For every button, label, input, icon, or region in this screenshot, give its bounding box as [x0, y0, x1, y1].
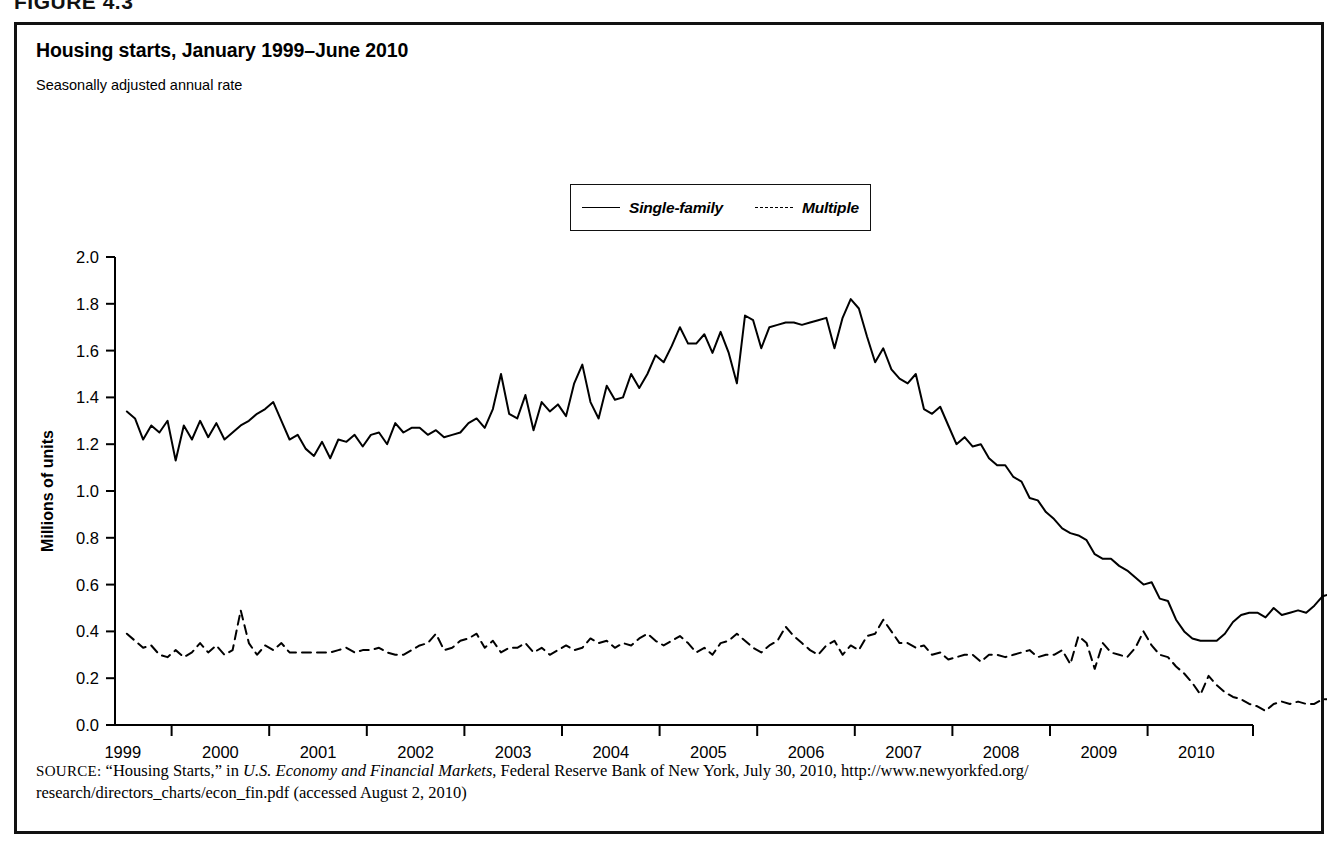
- y-axis-tick-label: 0.0: [76, 716, 99, 734]
- legend-label-multiple: Multiple: [802, 199, 859, 217]
- chart-legend: Single-family Multiple: [570, 184, 871, 231]
- y-axis-tick-label: 1.4: [76, 388, 99, 406]
- plot-area: 0.00.20.40.60.81.01.21.41.61.82.01999200…: [17, 25, 1327, 837]
- x-axis-tick-label: 2005: [690, 743, 727, 761]
- source-prefix: SOURCE:: [36, 763, 101, 779]
- source-publication-title: U.S. Economy and Financial Markets: [243, 761, 492, 780]
- x-axis-tick-label: 2003: [495, 743, 532, 761]
- legend-entry-multiple: Multiple: [755, 199, 859, 217]
- legend-label-single-family: Single-family: [629, 199, 723, 217]
- y-axis-tick-label: 1.6: [76, 342, 99, 360]
- y-axis-tick-label: 1.2: [76, 435, 99, 453]
- x-axis-tick-label: 2008: [983, 743, 1020, 761]
- y-axis-tick-label: 1.0: [76, 482, 99, 500]
- x-axis-tick-label: 2010: [1178, 743, 1215, 761]
- source-line1-a: “Housing Starts,” in: [101, 761, 243, 780]
- x-axis-tick-label: 2004: [592, 743, 629, 761]
- figure-number-label: FIGURE 4.3: [14, 0, 133, 14]
- x-axis-tick-label: 2001: [300, 743, 337, 761]
- series-line-single-family: [127, 299, 1327, 641]
- series-line-multiple: [127, 610, 1327, 711]
- chart-subtitle: Seasonally adjusted annual rate: [36, 77, 242, 93]
- x-axis-tick-label: 2000: [202, 743, 239, 761]
- y-axis-title: Millions of units: [39, 430, 56, 552]
- y-axis-tick-label: 0.8: [76, 529, 99, 547]
- source-note: SOURCE: “Housing Starts,” in U.S. Econom…: [36, 760, 1311, 804]
- x-axis-tick-label: 2009: [1080, 743, 1117, 761]
- x-axis-tick-label: 2006: [788, 743, 825, 761]
- y-axis-tick-label: 0.6: [76, 576, 99, 594]
- chart-axes: 0.00.20.40.60.81.01.21.41.61.82.01999200…: [39, 248, 1253, 761]
- x-axis-tick-label: 2007: [885, 743, 922, 761]
- y-axis-tick-label: 0.4: [76, 622, 99, 640]
- chart-series: [127, 299, 1327, 711]
- y-axis-tick-label: 2.0: [76, 248, 99, 266]
- source-line1-b: , Federal Reserve Bank of New York, July…: [492, 761, 1028, 780]
- y-axis-tick-label: 0.2: [76, 669, 99, 687]
- legend-entry-single-family: Single-family: [582, 199, 723, 217]
- figure-frame: Housing starts, January 1999–June 2010 S…: [14, 22, 1324, 834]
- y-axis-tick-label: 1.8: [76, 295, 99, 313]
- x-axis-tick-label: 1999: [104, 743, 141, 761]
- chart-title: Housing starts, January 1999–June 2010: [36, 39, 408, 62]
- x-axis-tick-label: 2002: [397, 743, 434, 761]
- source-line2: research/directors_charts/econ_fin.pdf (…: [36, 783, 467, 802]
